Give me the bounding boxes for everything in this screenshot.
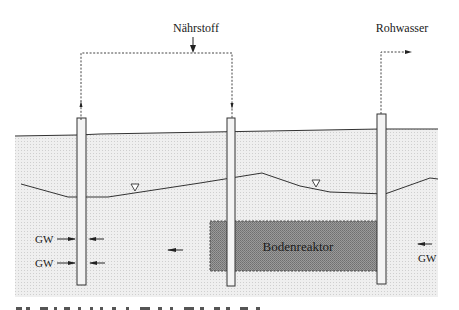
well-middle	[227, 118, 235, 286]
raw-water-arrow-icon	[405, 50, 412, 54]
gw-label-right: GW	[418, 252, 437, 264]
raw-water-label: Rohwasser	[376, 21, 429, 35]
gw-label-left-upper: GW	[35, 233, 54, 245]
nutrient-inlet-arrow-icon	[190, 45, 196, 53]
raw-water-pipe	[381, 52, 406, 114]
pipe-arrow-down-icon	[231, 103, 234, 109]
pipe-arrow-up-icon	[80, 101, 83, 107]
soil-reactor-diagram: Bodenreaktor Nährstoff Rohwasser GW GW G…	[0, 0, 459, 310]
well-left	[77, 118, 86, 285]
well-right	[377, 114, 386, 284]
nutrient-pipe	[81, 53, 232, 120]
nutrient-label: Nährstoff	[173, 21, 219, 35]
reactor-label: Bodenreaktor	[263, 239, 334, 254]
gw-label-left-lower: GW	[35, 257, 54, 269]
